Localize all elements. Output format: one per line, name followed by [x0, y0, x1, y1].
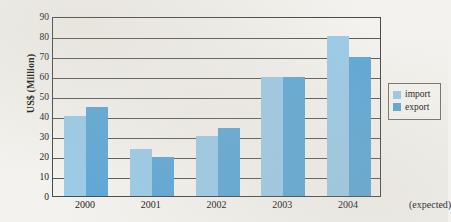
legend-item-export: export — [393, 103, 437, 113]
legend-item-import: import — [393, 90, 437, 100]
x-tick-label-2002: 2002 — [207, 199, 227, 210]
y-tick-label-40: 40 — [19, 113, 49, 123]
bar-group-2001 — [130, 18, 174, 196]
bar-import-2003 — [261, 77, 283, 196]
legend-label-import: import — [405, 90, 430, 100]
x-tick-label-2004: 2004 — [338, 199, 358, 210]
bar-export-2003 — [283, 77, 305, 196]
y-tick-label-10: 10 — [19, 173, 49, 183]
y-tick-label-20: 20 — [19, 153, 49, 163]
x-tick-label-2000: 2000 — [75, 199, 95, 210]
chart-legend: import export — [388, 83, 441, 120]
legend-label-export: export — [405, 103, 429, 113]
y-tick-label-70: 70 — [19, 53, 49, 63]
y-tick-label-0: 0 — [19, 193, 49, 203]
bar-export-2001 — [152, 157, 174, 196]
bar-import-2002 — [196, 136, 218, 196]
bar-group-2002 — [196, 18, 240, 196]
legend-swatch-export — [393, 103, 401, 111]
y-tick-label-60: 60 — [19, 73, 49, 83]
bar-group-2000 — [64, 18, 108, 196]
bar-group-2003 — [261, 18, 305, 196]
bar-export-2004 — [349, 57, 371, 196]
bar-group-2004 — [327, 18, 371, 196]
bar-export-2000 — [86, 107, 108, 196]
y-tick-label-90: 90 — [19, 13, 49, 23]
y-tick-label-30: 30 — [19, 133, 49, 143]
y-tick-label-50: 50 — [19, 93, 49, 103]
y-tick-label-80: 80 — [19, 33, 49, 43]
bar-export-2002 — [218, 128, 240, 196]
expected-note: (expected) — [409, 199, 451, 210]
x-axis-tick-labels: (expected) 20002001200220032004 — [52, 199, 448, 217]
x-tick-label-2003: 2003 — [272, 199, 292, 210]
bars-layer — [53, 18, 380, 196]
bar-import-2000 — [64, 116, 86, 196]
bar-import-2004 — [327, 36, 349, 196]
legend-swatch-import — [393, 91, 401, 99]
plot-area: 0102030405060708090 — [52, 17, 381, 197]
bar-import-2001 — [130, 149, 152, 196]
x-tick-label-2001: 2001 — [141, 199, 161, 210]
